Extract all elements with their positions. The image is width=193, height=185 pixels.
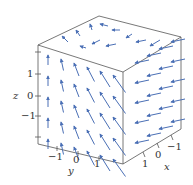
y-tick-neg1: −1 [48, 152, 63, 162]
x-tick-1: 1 [142, 159, 148, 169]
x-tick-0: 0 [155, 150, 161, 160]
z-tick-1: 1 [27, 69, 33, 79]
y-tick-0: 0 [73, 155, 79, 165]
y-axis-label: y [68, 166, 74, 176]
bounding-box [38, 16, 181, 164]
z-tick-0: 0 [27, 91, 33, 101]
z-tick-neg1: −1 [21, 111, 36, 121]
z-axis-label: z [13, 91, 18, 101]
y-tick-1: 1 [94, 159, 100, 169]
x-tick-neg1: −1 [167, 142, 182, 152]
x-axis-label: x [164, 162, 170, 172]
